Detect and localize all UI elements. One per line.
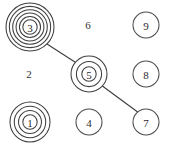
- node-label: 8: [143, 69, 149, 81]
- graph-node[interactable]: 1: [10, 102, 50, 142]
- graph-node[interactable]: 5: [71, 56, 107, 92]
- nodes-group: 123456789: [6, 3, 159, 142]
- node-label: 3: [27, 22, 33, 34]
- diagram-canvas: 123456789: [0, 0, 176, 147]
- network-graph: 123456789: [0, 0, 176, 147]
- node-label: 1: [27, 117, 33, 129]
- node-label: 4: [86, 117, 92, 129]
- graph-node[interactable]: 4: [76, 109, 102, 135]
- graph-node[interactable]: 8: [133, 61, 159, 87]
- graph-node[interactable]: 7: [133, 109, 159, 135]
- node-label: 7: [143, 117, 149, 129]
- node-label: 2: [26, 68, 32, 80]
- node-label: 6: [85, 19, 91, 31]
- graph-node[interactable]: 2: [26, 68, 32, 80]
- graph-node[interactable]: 9: [133, 12, 159, 38]
- graph-node[interactable]: 6: [85, 19, 91, 31]
- node-label: 5: [86, 69, 92, 81]
- node-label: 9: [143, 20, 149, 32]
- graph-edge: [101, 85, 139, 113]
- graph-edge: [47, 44, 78, 64]
- graph-node[interactable]: 3: [6, 3, 54, 51]
